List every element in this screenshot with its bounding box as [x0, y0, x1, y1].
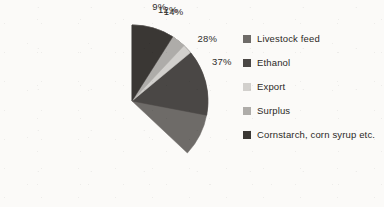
legend-swatch-icon — [243, 83, 251, 91]
pie-slice-value-label: 37% — [212, 57, 232, 67]
legend-item: Export — [243, 81, 384, 93]
legend-item: Ethanol — [243, 57, 384, 69]
legend-item-label: Ethanol — [257, 57, 290, 69]
legend-swatch-icon — [243, 131, 251, 139]
pie-chart-plot-area: 37%28%14%12%9% — [0, 0, 240, 207]
pie-chart-svg — [0, 0, 240, 207]
legend-swatch-icon — [243, 107, 251, 115]
pie-slice-value-label: 9% — [152, 2, 166, 12]
pie-slice-value-label: 28% — [198, 34, 218, 44]
chart-legend: Livestock feedEthanolExportSurplusCornst… — [243, 33, 384, 153]
legend-swatch-icon — [243, 35, 251, 43]
pie-slice-group — [132, 25, 208, 153]
legend-item-label: Surplus — [257, 105, 290, 117]
legend-item: Livestock feed — [243, 33, 384, 45]
legend-swatch-icon — [243, 59, 251, 67]
legend-item: Cornstarch, corn syrup etc. — [243, 129, 384, 141]
pie-chart-figure: 37%28%14%12%9% Livestock feedEthanolExpo… — [0, 0, 384, 207]
legend-item-label: Livestock feed — [257, 33, 320, 45]
legend-item-label: Cornstarch, corn syrup etc. — [257, 129, 375, 141]
legend-item: Surplus — [243, 105, 384, 117]
legend-item-label: Export — [257, 81, 285, 93]
